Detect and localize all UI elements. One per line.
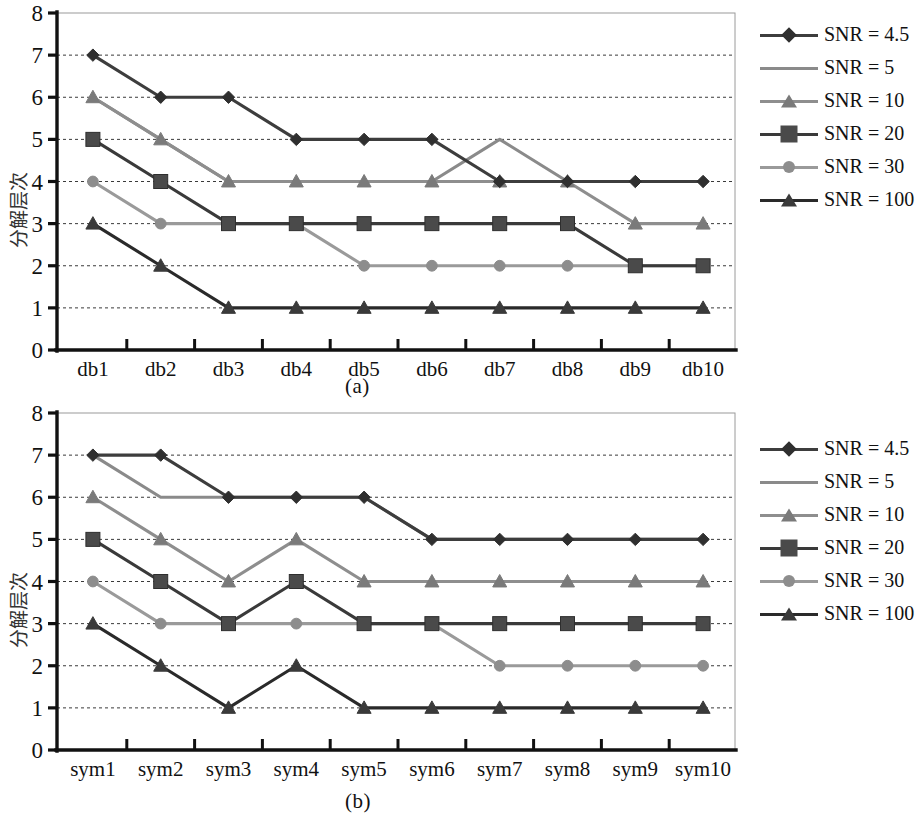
legend-swatch-square-icon xyxy=(760,538,818,558)
panel-b-caption: (b) xyxy=(345,789,371,814)
svg-text:4: 4 xyxy=(32,570,44,595)
svg-text:sym10: sym10 xyxy=(675,757,731,781)
legend-item: SNR = 30 xyxy=(760,564,914,597)
svg-text:7: 7 xyxy=(32,443,44,468)
legend-item: SNR = 20 xyxy=(760,531,914,564)
series-snr-10 xyxy=(86,90,710,229)
y-axis-label-b: 分解层次 xyxy=(4,572,31,648)
svg-text:db10: db10 xyxy=(682,357,724,381)
svg-text:db1: db1 xyxy=(77,357,109,381)
svg-text:sym3: sym3 xyxy=(206,757,252,781)
svg-text:sym2: sym2 xyxy=(138,757,184,781)
legend-item: SNR = 10 xyxy=(760,498,914,531)
legend-item: SNR = 30 xyxy=(760,150,914,183)
legend-item: SNR = 10 xyxy=(760,84,914,117)
legend-swatch-triangle-icon xyxy=(760,505,818,525)
svg-text:sym1: sym1 xyxy=(70,757,116,781)
svg-text:3: 3 xyxy=(32,612,44,637)
legend-swatch-square-icon xyxy=(760,124,818,144)
svg-text:db6: db6 xyxy=(416,357,448,381)
svg-text:sym7: sym7 xyxy=(477,757,523,781)
legend-item: SNR = 5 xyxy=(760,465,914,498)
legend-item: SNR = 5 xyxy=(760,51,914,84)
series-snr-4.5 xyxy=(87,49,710,188)
legend-label: SNR = 5 xyxy=(824,56,894,79)
legend-label: SNR = 10 xyxy=(824,503,904,526)
legend-swatch-diamond-icon xyxy=(760,439,818,459)
svg-text:6: 6 xyxy=(32,85,44,110)
legend-swatch-triangle-icon xyxy=(760,604,818,624)
panel-a-caption: (a) xyxy=(345,374,370,399)
legend-swatch-diamond-icon xyxy=(760,25,818,45)
svg-text:3: 3 xyxy=(32,212,44,237)
legend-label: SNR = 4.5 xyxy=(824,437,909,460)
legend-label: SNR = 30 xyxy=(824,155,904,178)
svg-text:db9: db9 xyxy=(620,357,652,381)
legend-b: SNR = 4.5SNR = 5SNR = 10SNR = 20SNR = 30… xyxy=(760,432,914,630)
legend-swatch-triangle-icon xyxy=(760,190,818,210)
legend-label: SNR = 100 xyxy=(824,602,914,625)
legend-item: SNR = 100 xyxy=(760,597,914,630)
legend-label: SNR = 100 xyxy=(824,188,914,211)
svg-text:db3: db3 xyxy=(213,357,245,381)
legend-a: SNR = 4.5SNR = 5SNR = 10SNR = 20SNR = 30… xyxy=(760,18,914,216)
svg-text:sym9: sym9 xyxy=(613,757,659,781)
svg-text:sym4: sym4 xyxy=(274,757,320,781)
legend-item: SNR = 4.5 xyxy=(760,432,914,465)
svg-text:sym6: sym6 xyxy=(409,757,455,781)
legend-swatch-circle-icon xyxy=(760,157,818,177)
legend-item: SNR = 100 xyxy=(760,183,914,216)
y-axis-label-a: 分解层次 xyxy=(4,172,31,248)
svg-text:8: 8 xyxy=(32,401,44,426)
legend-swatch-none-icon xyxy=(760,472,818,492)
legend-label: SNR = 20 xyxy=(824,122,904,145)
svg-text:db8: db8 xyxy=(552,357,584,381)
legend-label: SNR = 4.5 xyxy=(824,23,909,46)
svg-text:sym8: sym8 xyxy=(545,757,591,781)
svg-text:1: 1 xyxy=(32,696,44,721)
svg-text:db7: db7 xyxy=(484,357,516,381)
svg-text:sym5: sym5 xyxy=(341,757,387,781)
chart-a-plot: 012345678db1db2db3db4db5db6db7db8db9db10 xyxy=(0,0,760,400)
svg-text:db4: db4 xyxy=(281,357,313,381)
legend-label: SNR = 5 xyxy=(824,470,894,493)
svg-text:6: 6 xyxy=(32,485,44,510)
legend-label: SNR = 10 xyxy=(824,89,904,112)
svg-text:7: 7 xyxy=(32,43,44,68)
legend-swatch-triangle-icon xyxy=(760,91,818,111)
svg-text:0: 0 xyxy=(32,338,44,363)
svg-text:2: 2 xyxy=(32,654,44,679)
legend-label: SNR = 20 xyxy=(824,536,904,559)
svg-text:4: 4 xyxy=(32,170,44,195)
legend-item: SNR = 20 xyxy=(760,117,914,150)
svg-text:2: 2 xyxy=(32,254,44,279)
legend-label: SNR = 30 xyxy=(824,569,904,592)
legend-swatch-circle-icon xyxy=(760,571,818,591)
legend-swatch-none-icon xyxy=(760,58,818,78)
svg-text:5: 5 xyxy=(32,127,44,152)
svg-text:0: 0 xyxy=(32,738,44,763)
svg-text:1: 1 xyxy=(32,296,44,321)
series-snr-20 xyxy=(86,132,710,272)
legend-item: SNR = 4.5 xyxy=(760,18,914,51)
chart-b-plot: 012345678sym1sym2sym3sym4sym5sym6sym7sym… xyxy=(0,400,760,800)
svg-text:5: 5 xyxy=(32,527,44,552)
svg-text:db2: db2 xyxy=(145,357,177,381)
svg-text:8: 8 xyxy=(32,1,44,26)
